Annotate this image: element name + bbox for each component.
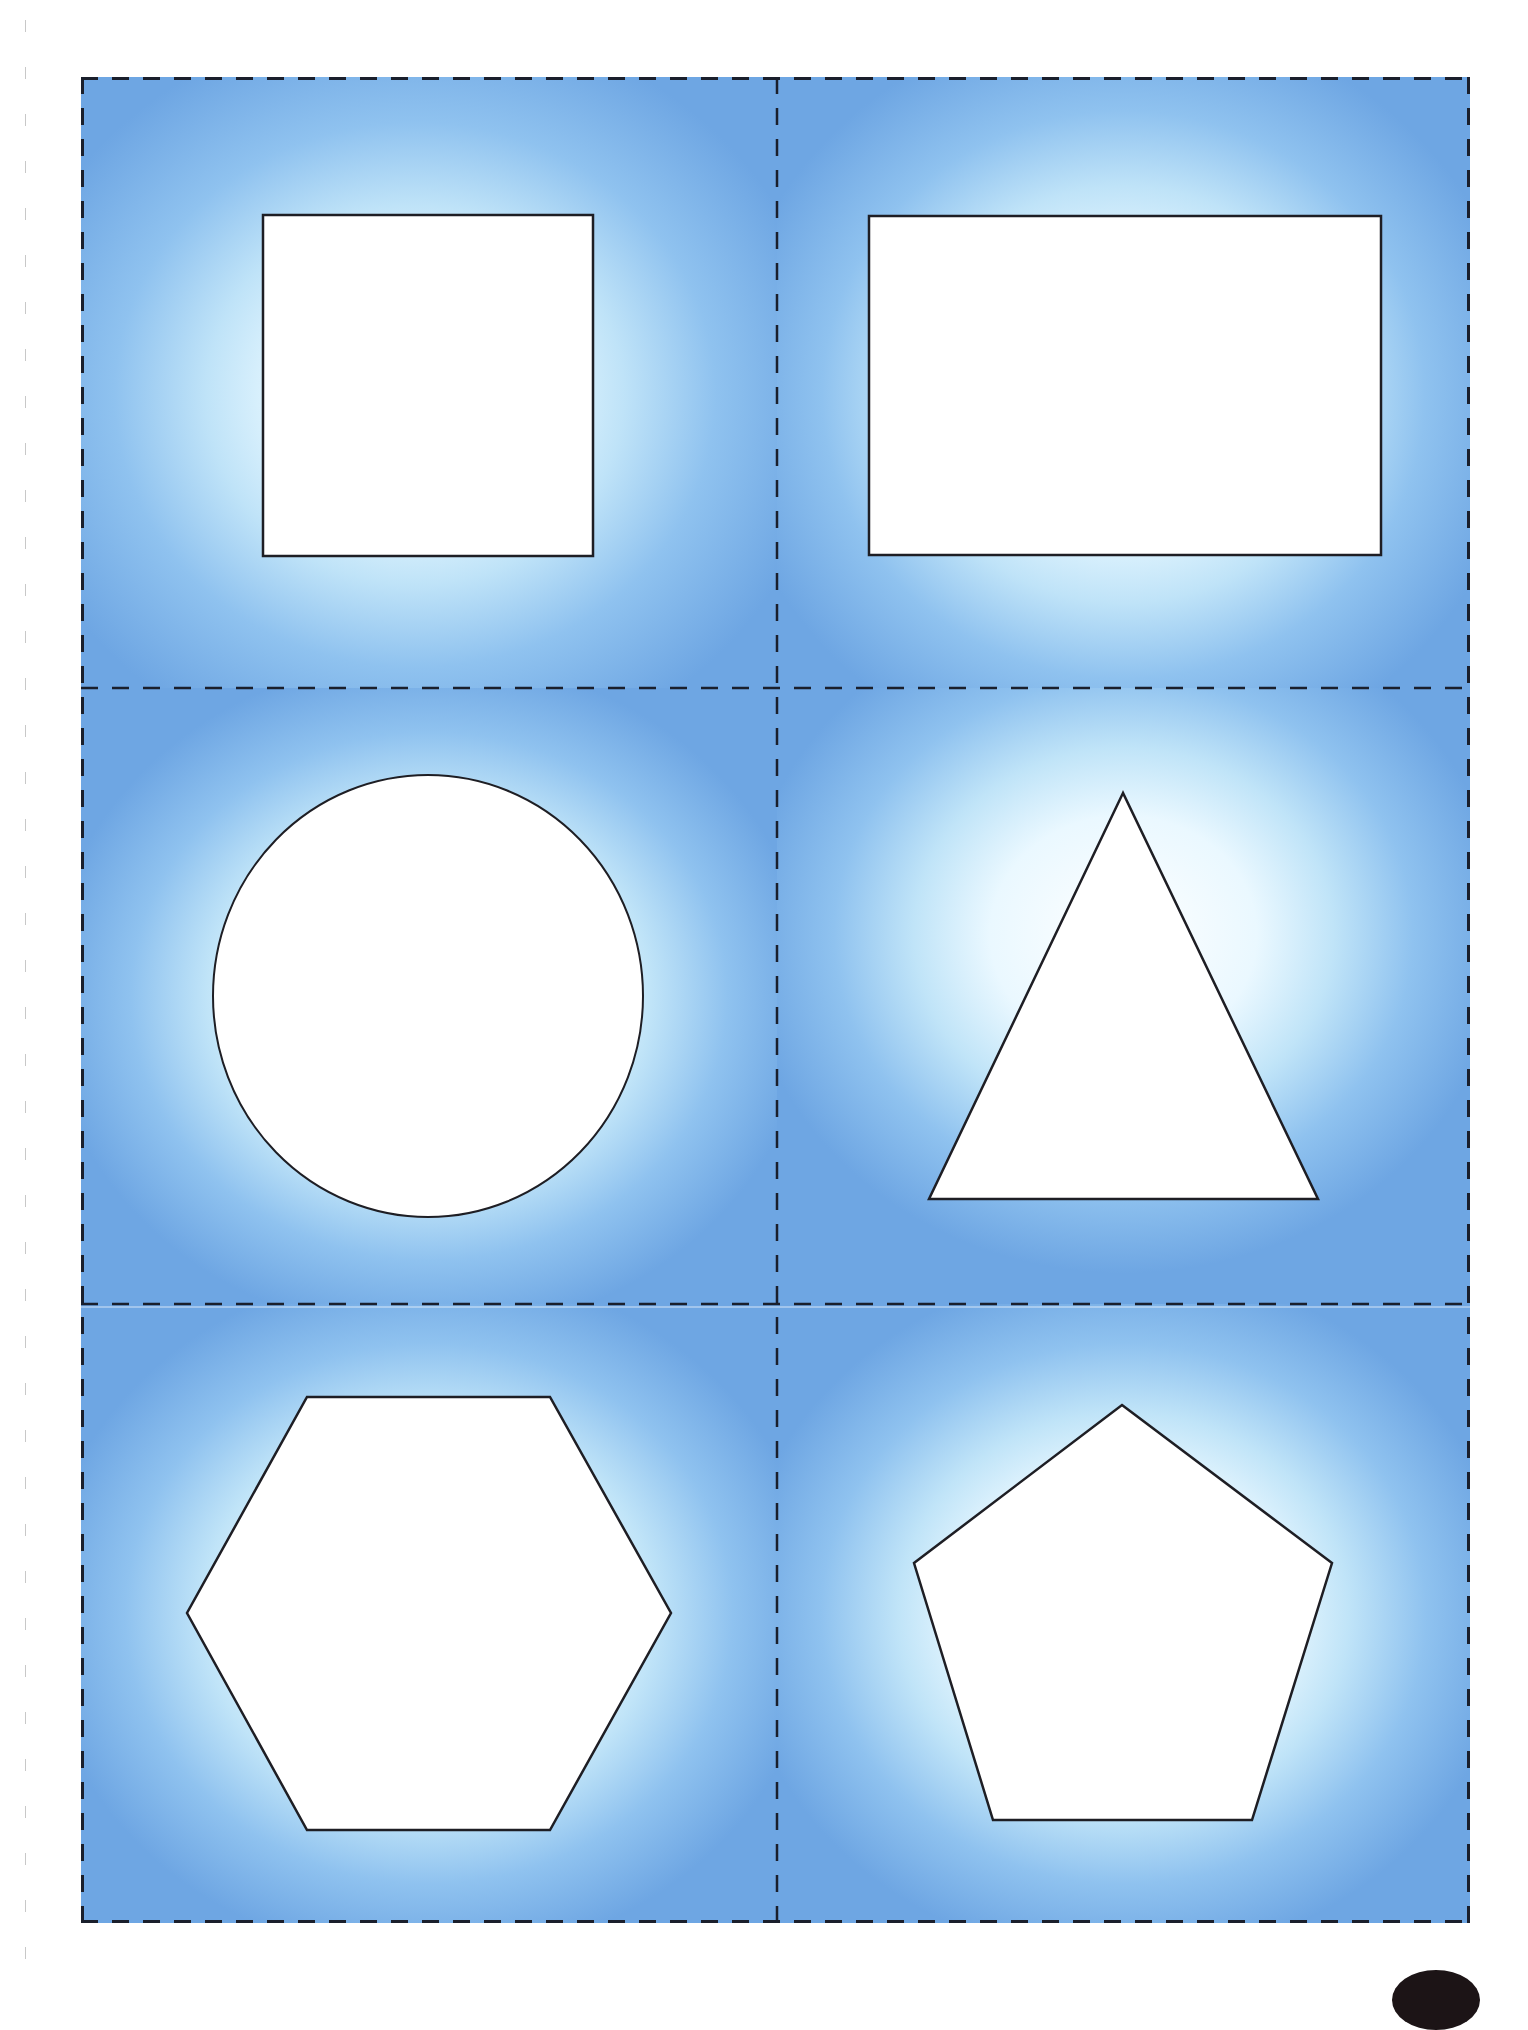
card-triangle	[777, 688, 1470, 1304]
pentagon-icon	[777, 1304, 1470, 1923]
margin-tick	[25, 913, 26, 925]
triangle-icon	[777, 688, 1470, 1304]
margin-tick	[25, 1947, 26, 1959]
rectangle-icon	[777, 77, 1470, 688]
margin-tick	[25, 1853, 26, 1865]
margin-tick	[25, 584, 26, 596]
card-hexagon	[81, 1304, 777, 1923]
margin-tick	[25, 20, 26, 32]
margin-tick	[25, 1148, 26, 1160]
margin-tick	[25, 1054, 26, 1066]
margin-tick-marks	[24, 0, 28, 1991]
hexagon-icon	[81, 1304, 777, 1923]
margin-tick	[25, 1618, 26, 1630]
margin-tick	[25, 1195, 26, 1207]
margin-tick	[25, 819, 26, 831]
card-rectangle	[777, 77, 1470, 688]
margin-tick	[25, 1007, 26, 1019]
margin-tick	[25, 537, 26, 549]
margin-tick	[25, 678, 26, 690]
margin-tick	[25, 161, 26, 173]
margin-tick	[25, 772, 26, 784]
margin-tick	[25, 67, 26, 79]
margin-tick	[25, 631, 26, 643]
margin-tick	[25, 1242, 26, 1254]
margin-tick	[25, 1524, 26, 1536]
margin-tick	[25, 1289, 26, 1301]
margin-tick	[25, 1900, 26, 1912]
margin-tick	[25, 960, 26, 972]
margin-tick	[25, 1759, 26, 1771]
margin-tick	[25, 1101, 26, 1113]
margin-tick	[25, 396, 26, 408]
card-circle	[81, 688, 777, 1304]
margin-tick	[25, 208, 26, 220]
card-sheet	[81, 77, 1470, 1923]
corner-registration-mark	[1392, 1970, 1480, 2030]
margin-tick	[25, 1712, 26, 1724]
margin-tick	[25, 443, 26, 455]
margin-tick	[25, 255, 26, 267]
margin-tick	[25, 114, 26, 126]
margin-tick	[25, 1430, 26, 1442]
margin-tick	[25, 1806, 26, 1818]
margin-tick	[25, 302, 26, 314]
margin-tick	[25, 1477, 26, 1489]
margin-tick	[25, 1383, 26, 1395]
margin-tick	[25, 1571, 26, 1583]
margin-tick	[25, 490, 26, 502]
square-icon	[81, 77, 777, 688]
margin-tick	[25, 725, 26, 737]
margin-tick	[25, 349, 26, 361]
card-square	[81, 77, 777, 688]
margin-tick	[25, 866, 26, 878]
card-pentagon	[777, 1304, 1470, 1923]
margin-tick	[25, 1336, 26, 1348]
circle-icon	[81, 688, 777, 1304]
margin-tick	[25, 1665, 26, 1677]
